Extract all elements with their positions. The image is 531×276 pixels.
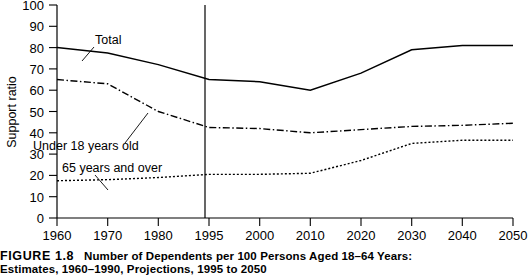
x-tick-label: 2050 xyxy=(499,228,528,243)
x-tick-label: 2020 xyxy=(347,228,376,243)
annotation-leader-total xyxy=(82,47,94,61)
line-chart-svg: 100 90 80 70 60 50 40 30 20 10 0 Support… xyxy=(0,0,531,250)
y-tick-marks xyxy=(49,5,57,218)
annotation-label-under-18: Under 18 years old xyxy=(33,139,139,153)
y-axis-title: Support ratio xyxy=(5,76,19,148)
x-tick-label: 2000 xyxy=(245,228,274,243)
annotation-leader-65-and-over xyxy=(95,175,108,190)
y-axis-tick-labels: 100 90 80 70 60 50 40 30 20 10 0 xyxy=(22,0,44,226)
x-tick-label: 2040 xyxy=(448,228,477,243)
y-tick-label: 70 xyxy=(30,62,44,77)
x-tick-label: 1970 xyxy=(93,228,122,243)
caption-line-2: Estimates, 1960–1990, Projections, 1995 … xyxy=(0,263,531,276)
y-tick-label: 0 xyxy=(37,211,44,226)
figure-caption: FIGURE 1.8Number of Dependents per 100 P… xyxy=(0,250,531,276)
figure-container: 100 90 80 70 60 50 40 30 20 10 0 Support… xyxy=(0,0,531,276)
y-tick-label: 90 xyxy=(30,19,44,34)
x-tick-label: 1995 xyxy=(195,228,224,243)
y-tick-label: 60 xyxy=(30,83,44,98)
y-tick-label: 10 xyxy=(30,190,44,205)
series-line-total xyxy=(57,45,513,90)
series-line-under-18 xyxy=(57,80,513,133)
x-tick-label: 2030 xyxy=(397,228,426,243)
figure-number: FIGURE 1.8 xyxy=(0,249,74,263)
x-tick-marks xyxy=(57,218,513,226)
y-tick-label: 80 xyxy=(30,41,44,56)
y-tick-label: 100 xyxy=(22,0,44,13)
x-tick-label: 1980 xyxy=(144,228,173,243)
x-tick-label: 2010 xyxy=(296,228,325,243)
y-tick-label: 50 xyxy=(30,105,44,120)
chart-plot-area: 100 90 80 70 60 50 40 30 20 10 0 Support… xyxy=(0,0,531,250)
caption-text-1: Number of Dependents per 100 Persons Age… xyxy=(84,250,412,262)
x-axis-tick-labels: 1960 1970 1980 1995 2000 2010 2020 2030 … xyxy=(43,228,528,243)
x-tick-label: 1960 xyxy=(43,228,72,243)
y-tick-label: 20 xyxy=(30,168,44,183)
annotation-label-65-and-over: 65 years and over xyxy=(62,161,162,175)
annotation-label-total: Total xyxy=(95,33,121,47)
caption-line-1: FIGURE 1.8Number of Dependents per 100 P… xyxy=(0,250,531,263)
